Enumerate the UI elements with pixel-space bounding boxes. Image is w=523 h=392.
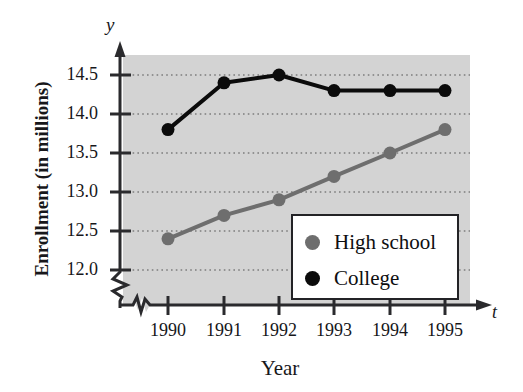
data-point	[218, 76, 231, 89]
data-point	[162, 232, 175, 245]
x-tick-label: 1993	[302, 320, 366, 341]
legend-item-high-school: High school	[305, 225, 436, 259]
data-point	[273, 193, 286, 206]
data-point	[162, 123, 175, 136]
x-axis-title: Year	[180, 356, 380, 381]
data-point	[218, 209, 231, 222]
data-point	[328, 84, 341, 97]
data-point	[328, 170, 341, 183]
data-point	[273, 69, 286, 82]
legend-item-college: College	[305, 261, 399, 295]
x-tick-label: 1995	[413, 320, 477, 341]
data-point	[439, 84, 452, 97]
x-axis-arrowhead	[476, 300, 492, 311]
data-point	[384, 147, 397, 160]
y-axis-variable-label: y	[106, 14, 114, 36]
legend-swatch-icon	[305, 271, 320, 286]
chart-legend: High school College	[291, 214, 459, 300]
y-axis-title: Enrollment (in millions)	[31, 49, 53, 309]
data-point	[384, 84, 397, 97]
legend-label: High school	[334, 230, 436, 255]
legend-swatch-icon	[305, 235, 320, 250]
x-axis-variable-label: t	[492, 302, 497, 323]
data-point	[439, 123, 452, 136]
enrollment-line-chart: y t 14.5 14.0 13.5 13.0 12.5 12.0 1990 1…	[0, 0, 523, 392]
legend-label: College	[334, 266, 399, 291]
y-axis-arrowhead	[115, 41, 126, 57]
x-tick-label: 1990	[136, 320, 200, 341]
